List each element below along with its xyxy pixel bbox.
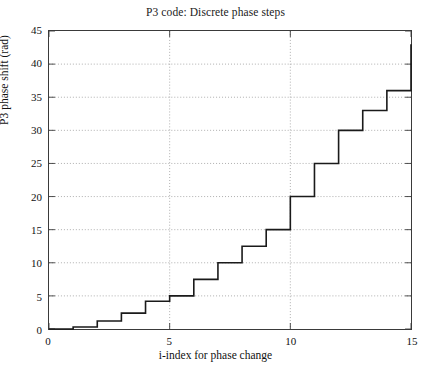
figure-canvas: P3 code: Discrete phase steps P3 phase s… [0, 0, 431, 374]
plot-area [48, 30, 412, 330]
y-tick-label: 35 [12, 91, 42, 103]
step-line-series [49, 44, 411, 329]
y-tick-label: 25 [12, 157, 42, 169]
y-tick-label: 30 [12, 124, 42, 136]
y-axis-title: P3 phase shift (rad) [0, 0, 10, 180]
x-tick-label: 0 [28, 335, 68, 347]
y-tick-label: 10 [12, 257, 42, 269]
y-tick-label: 20 [12, 191, 42, 203]
y-tick-label: 5 [12, 291, 42, 303]
x-tick-label: 5 [149, 335, 189, 347]
x-tick-label: 10 [271, 335, 311, 347]
chart-title: P3 code: Discrete phase steps [0, 6, 431, 18]
x-axis-title: i-index for phase change [0, 349, 431, 361]
data-layer [49, 31, 411, 329]
y-tick-label: 40 [12, 57, 42, 69]
x-tick-label: 15 [392, 335, 431, 347]
y-tick-label: 15 [12, 224, 42, 236]
y-tick-label: 45 [12, 24, 42, 36]
